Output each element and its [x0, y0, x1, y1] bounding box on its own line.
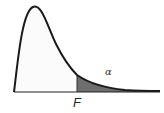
alpha-label: α [105, 66, 112, 77]
f-distribution-diagram: F α [0, 0, 164, 113]
critical-value-label: F [73, 95, 82, 110]
